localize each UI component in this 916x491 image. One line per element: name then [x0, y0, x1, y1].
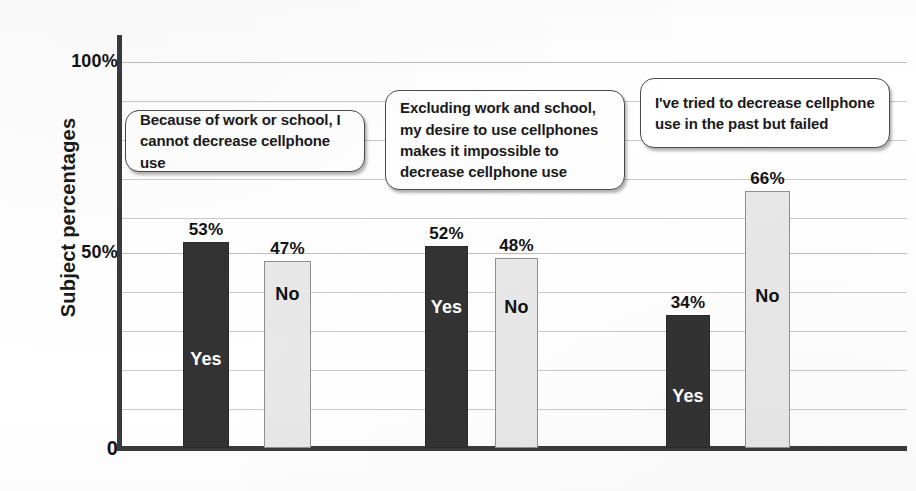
y-axis-tick-labels: 100% 50% 0 [10, 0, 118, 491]
bar-inner-label: No [755, 286, 779, 307]
bar-group2-yes[interactable]: 52% Yes [425, 246, 468, 448]
bar-value-label: 66% [750, 169, 785, 189]
bar-inner-label: Yes [672, 386, 704, 407]
gridline-100 [122, 62, 907, 63]
bar-value-label: 52% [429, 224, 464, 244]
callout-text-1: Because of work or school, I cannot decr… [126, 109, 364, 173]
bar-value-label: 53% [189, 220, 224, 240]
bar-inner-label: Yes [431, 297, 463, 318]
bar-chart: Subject percentages 100% 50% 0 53% Yes 4… [0, 0, 916, 491]
y-tick-100: 100% [18, 51, 118, 72]
y-tick-0: 0 [18, 437, 118, 460]
bar-value-label: 34% [671, 293, 706, 313]
bar-group3-yes[interactable]: 34% Yes [666, 315, 710, 448]
bar-inner-label: Yes [190, 349, 222, 370]
callout-text-3: I've tried to decrease cellphone use in … [641, 92, 889, 135]
bar-group1-no[interactable]: 47% No [264, 261, 311, 448]
bar-group2-no[interactable]: 48% No [495, 258, 538, 448]
bar-value-label: 48% [499, 236, 534, 256]
callout-box-3[interactable]: I've tried to decrease cellphone use in … [640, 78, 890, 148]
bar-inner-label: No [504, 297, 528, 318]
y-tick-50: 50% [18, 242, 118, 263]
bar-inner-label: No [275, 284, 299, 305]
callout-text-2: Excluding work and school, my desire to … [386, 97, 624, 182]
bar-value-label: 47% [270, 239, 305, 259]
bar-group3-no[interactable]: 66% No [745, 191, 790, 448]
bar-group1-yes[interactable]: 53% Yes [183, 242, 229, 448]
callout-box-1[interactable]: Because of work or school, I cannot decr… [125, 110, 365, 172]
callout-box-2[interactable]: Excluding work and school, my desire to … [385, 90, 625, 190]
